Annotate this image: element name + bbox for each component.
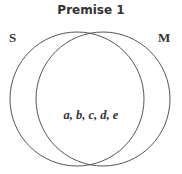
set-m-circle (36, 32, 170, 166)
set-s-label: S (9, 30, 16, 46)
intersection-members: a, b, c, d, e (0, 108, 182, 123)
venn-diagram: Premise 1 S M a, b, c, d, e (0, 0, 182, 174)
set-m-label: M (158, 30, 170, 46)
venn-circles (0, 0, 182, 174)
set-s-circle (10, 32, 144, 166)
